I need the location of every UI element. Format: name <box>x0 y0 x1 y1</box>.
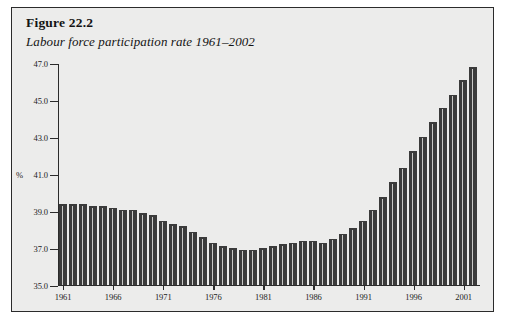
bar-highlight <box>172 226 174 285</box>
bar-highlight <box>332 240 334 284</box>
x-axis-tick-label: 2001 <box>455 292 472 302</box>
bar-highlight <box>222 248 224 285</box>
bar <box>69 204 76 284</box>
x-axis-tick <box>113 286 114 290</box>
bar-highlight <box>162 222 164 284</box>
bar <box>179 226 186 284</box>
y-axis-tick-label: 43.0 <box>34 133 48 143</box>
bar <box>369 210 376 285</box>
x-axis-tick-label: 1976 <box>205 292 222 302</box>
chart-plot: 35.037.039.041.043.045.047.0%19611966197… <box>58 64 480 286</box>
bar <box>229 248 236 285</box>
x-axis-tick <box>263 286 264 290</box>
bar <box>449 95 456 285</box>
bar <box>439 108 446 285</box>
bar <box>379 197 386 285</box>
bar <box>149 215 156 284</box>
x-axis-tick-label: 1991 <box>355 292 372 302</box>
y-axis-tick <box>50 212 58 213</box>
bar-highlight <box>412 153 414 285</box>
y-axis-tick-label: 47.0 <box>34 59 48 69</box>
bar <box>339 234 346 285</box>
y-axis-tick <box>50 286 58 287</box>
x-axis-tick <box>464 286 465 290</box>
bar-highlight <box>272 248 274 285</box>
x-axis-tick-label: 1996 <box>405 292 422 302</box>
bar-highlight <box>322 244 324 284</box>
x-axis-tick <box>63 286 64 290</box>
bar-highlight <box>292 244 294 284</box>
bar-highlight <box>72 206 74 285</box>
x-axis-tick <box>414 286 415 290</box>
bar-highlight <box>202 239 204 285</box>
bar <box>59 204 66 284</box>
bar <box>279 244 286 284</box>
figure-number: Figure 22.2 <box>26 15 93 31</box>
y-axis-tick-label: 45.0 <box>34 96 48 106</box>
bar-highlight <box>112 209 114 284</box>
bar-highlight <box>102 208 104 285</box>
bar-highlight <box>62 206 64 285</box>
bar-highlight <box>402 169 404 284</box>
bar-highlight <box>122 211 124 284</box>
bar-highlight <box>422 138 424 284</box>
bar <box>209 243 216 285</box>
bar <box>79 204 86 284</box>
bar <box>429 122 436 284</box>
bar <box>219 246 226 284</box>
figure-panel: Figure 22.2 Labour force participation r… <box>11 7 494 312</box>
bar-highlight <box>142 215 144 285</box>
bar-highlight <box>192 233 194 284</box>
bar <box>189 232 196 285</box>
bar-highlight <box>212 244 214 284</box>
x-axis-tick-label: 1966 <box>105 292 122 302</box>
bar <box>239 250 246 285</box>
bar-highlight <box>312 242 314 284</box>
bar <box>389 182 396 284</box>
bar <box>89 206 96 284</box>
bar <box>459 80 466 284</box>
bar <box>139 213 146 284</box>
bar <box>119 210 126 285</box>
bar <box>269 246 276 284</box>
x-axis-tick-label: 1981 <box>255 292 272 302</box>
bar-highlight <box>152 217 154 285</box>
bar <box>399 168 406 285</box>
bar <box>469 67 476 284</box>
bar <box>299 241 306 285</box>
bar <box>409 151 416 284</box>
bar <box>359 221 366 285</box>
bar-highlight <box>132 211 134 284</box>
bar <box>199 237 206 284</box>
bar-highlight <box>282 246 284 285</box>
y-axis-title: % <box>16 170 23 180</box>
bar-highlight <box>462 82 464 285</box>
y-axis-tick <box>50 138 58 139</box>
bar-highlight <box>232 250 234 285</box>
bar <box>319 243 326 285</box>
y-axis-tick-label: 41.0 <box>34 170 48 180</box>
x-axis-tick-label: 1961 <box>55 292 72 302</box>
bar-highlight <box>302 242 304 284</box>
bar-highlight <box>432 124 434 285</box>
y-axis-tick-label: 35.0 <box>34 281 48 291</box>
bar-series <box>59 66 477 285</box>
y-axis-tick-label: 37.0 <box>34 244 48 254</box>
bar-highlight <box>382 199 384 285</box>
bar <box>419 137 426 285</box>
y-axis-tick-label: 39.0 <box>34 207 48 217</box>
bar-highlight <box>442 109 444 285</box>
y-axis-tick <box>50 101 58 102</box>
bar-highlight <box>372 211 374 284</box>
x-axis-tick <box>213 286 214 290</box>
bar <box>309 241 316 285</box>
y-axis-tick <box>50 175 58 176</box>
bar-highlight <box>252 251 254 284</box>
bar-highlight <box>472 69 474 285</box>
bar <box>159 221 166 285</box>
bar-highlight <box>262 250 264 285</box>
x-axis-tick-label: 1986 <box>305 292 322 302</box>
x-axis-tick-label: 1971 <box>155 292 172 302</box>
bar <box>249 250 256 285</box>
bar-highlight <box>182 228 184 285</box>
